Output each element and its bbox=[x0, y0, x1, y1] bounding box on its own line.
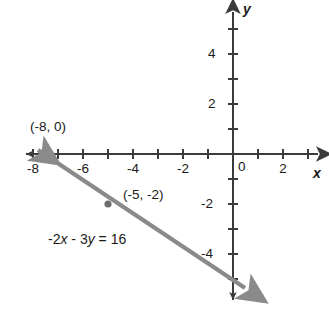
x-axis-name: x bbox=[313, 166, 321, 180]
x-tick-label-2: 2 bbox=[279, 162, 287, 176]
plotted-line bbox=[38, 150, 245, 288]
point-label-b: (-5, -2) bbox=[123, 188, 164, 202]
y-tick-label-4: 4 bbox=[208, 47, 216, 61]
x-tick-label--8: -8 bbox=[27, 162, 39, 176]
graph-canvas bbox=[0, 0, 329, 311]
x-tick-label--4: -4 bbox=[127, 162, 139, 176]
equation-prefix: -2 bbox=[48, 231, 60, 247]
y-axis-name: y bbox=[243, 2, 251, 16]
x-tick-label--2: -2 bbox=[177, 162, 189, 176]
point-label-a: (-8, 0) bbox=[30, 120, 66, 134]
coordinate-plane-figure: -8 -6 -4 -2 2 0 4 2 -2 -4 y x (-8, 0) (-… bbox=[0, 0, 329, 311]
equation-variable-y: y bbox=[88, 231, 95, 247]
x-tick-label--6: -6 bbox=[77, 162, 89, 176]
y-tick-label--4: -4 bbox=[201, 247, 213, 261]
y-axis bbox=[228, 12, 238, 300]
y-tick-label--2: -2 bbox=[201, 197, 213, 211]
equation-label: -2x - 3y = 16 bbox=[48, 232, 126, 246]
y-tick-label-2: 2 bbox=[208, 97, 216, 111]
origin-label: 0 bbox=[238, 160, 246, 174]
equation-middle: - 3 bbox=[67, 231, 87, 247]
x-axis bbox=[26, 149, 318, 159]
equation-suffix: = 16 bbox=[95, 231, 127, 247]
point-marker-b bbox=[104, 200, 111, 207]
